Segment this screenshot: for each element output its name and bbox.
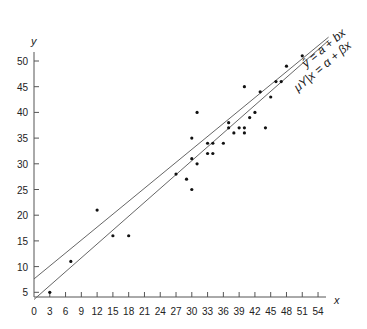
axes: yx03691215182124273033363942454851545101… — [17, 35, 340, 317]
x-tick-label: 21 — [139, 306, 151, 317]
y-tick-label: 5 — [22, 287, 28, 298]
data-point — [232, 131, 235, 134]
x-tick-label: 18 — [123, 306, 135, 317]
data-point — [206, 142, 209, 145]
x-tick-label: 42 — [249, 306, 261, 317]
y-tick-label: 30 — [17, 159, 29, 170]
data-point — [174, 172, 177, 175]
x-tick-label: 24 — [155, 306, 167, 317]
x-tick-label: 30 — [186, 306, 198, 317]
x-tick-label: 12 — [92, 306, 104, 317]
line-labels: ŷ = a + bxμY|x = α + βx — [290, 25, 355, 95]
y-tick-label: 20 — [17, 210, 29, 221]
y-tick-label: 50 — [17, 56, 29, 67]
data-point — [227, 126, 230, 129]
data-point — [190, 137, 193, 140]
x-tick-label: 6 — [63, 306, 69, 317]
data-point — [274, 80, 277, 83]
x-tick-label: 0 — [31, 306, 37, 317]
data-point — [243, 126, 246, 129]
x-tick-label: 33 — [202, 306, 214, 317]
x-tick-label: 3 — [47, 306, 53, 317]
data-point — [195, 162, 198, 165]
data-point — [127, 234, 130, 237]
data-point — [227, 121, 230, 124]
data-point — [243, 131, 246, 134]
data-point — [211, 152, 214, 155]
x-tick-label: 27 — [170, 306, 182, 317]
data-point — [69, 260, 72, 263]
data-point — [190, 188, 193, 191]
data-point — [243, 85, 246, 88]
data-point — [185, 178, 188, 181]
y-tick-label: 10 — [17, 262, 29, 273]
x-tick-label: 45 — [265, 306, 277, 317]
x-tick-label: 39 — [234, 306, 246, 317]
y-tick-label: 15 — [17, 236, 29, 247]
data-point — [96, 208, 99, 211]
data-point — [211, 142, 214, 145]
x-tick-label: 9 — [79, 306, 85, 317]
data-point — [248, 116, 251, 119]
data-point — [269, 95, 272, 98]
regression-chart: yx03691215182124273033363942454851545101… — [0, 0, 367, 329]
x-tick-label: 54 — [312, 306, 324, 317]
x-axis-label: x — [333, 294, 340, 306]
y-tick-label: 45 — [17, 82, 29, 93]
regression-lines — [34, 37, 329, 299]
y-tick-label: 40 — [17, 107, 29, 118]
true-regression-line — [34, 40, 329, 299]
x-tick-label: 51 — [297, 306, 309, 317]
y-tick-label: 35 — [17, 133, 29, 144]
y-tick-label: 25 — [17, 185, 29, 196]
data-point — [280, 80, 283, 83]
data-point — [206, 152, 209, 155]
data-point — [222, 142, 225, 145]
fitted-regression-line — [34, 37, 329, 279]
x-tick-label: 15 — [107, 306, 119, 317]
data-point — [111, 234, 114, 237]
x-tick-label: 36 — [218, 306, 230, 317]
data-point — [190, 157, 193, 160]
data-point — [195, 111, 198, 114]
x-tick-label: 48 — [281, 306, 293, 317]
data-point — [48, 291, 51, 294]
data-point — [285, 65, 288, 68]
data-point — [259, 90, 262, 93]
data-point — [253, 111, 256, 114]
y-axis-label: y — [30, 35, 38, 47]
data-points — [48, 54, 304, 294]
data-point — [238, 126, 241, 129]
data-point — [264, 126, 267, 129]
